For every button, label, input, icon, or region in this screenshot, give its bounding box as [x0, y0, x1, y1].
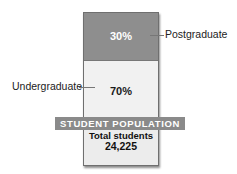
segment-postgraduate: 30%: [84, 13, 158, 61]
total-block: Total students 24,225: [84, 131, 158, 151]
chart-title-banner: STUDENT POPULATION: [55, 117, 185, 130]
postgraduate-leader-line: [150, 35, 164, 36]
segment-undergraduate: 70%: [84, 61, 158, 119]
undergraduate-label: Undergraduate: [12, 80, 82, 92]
undergraduate-percent: 70%: [84, 85, 158, 97]
postgraduate-label: Postgraduate: [165, 28, 227, 40]
postgraduate-percent: 30%: [84, 30, 158, 42]
total-value: 24,225: [84, 141, 158, 151]
